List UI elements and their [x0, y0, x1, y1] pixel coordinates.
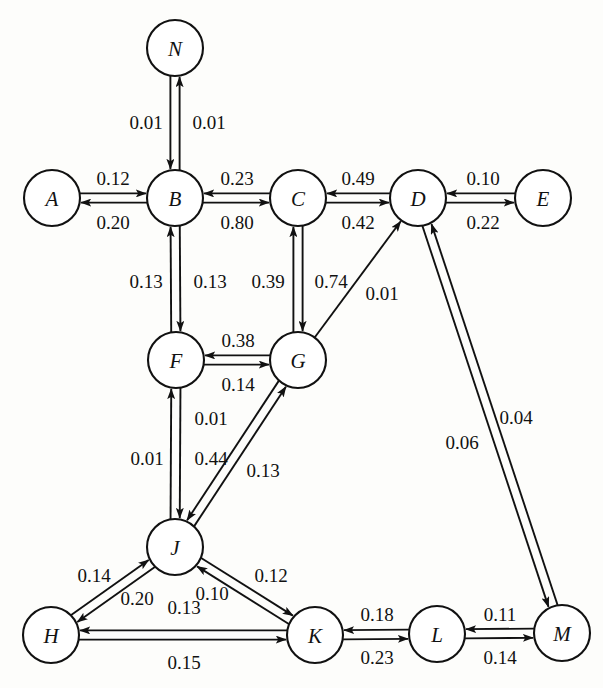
- node-m[interactable]: M: [534, 605, 590, 661]
- node-h[interactable]: H: [23, 607, 79, 663]
- edge-weight-f-j: 0.01: [130, 448, 163, 469]
- edge-weight-a-b: 0.12: [96, 168, 129, 189]
- node-label-c: C: [291, 187, 306, 211]
- node-label-d: D: [409, 187, 425, 211]
- node-a[interactable]: A: [24, 170, 80, 226]
- node-b[interactable]: B: [147, 170, 203, 226]
- edge-weight-c-b: 0.23: [220, 168, 253, 189]
- node-g[interactable]: G: [270, 332, 326, 388]
- edge-weight-l-m: 0.14: [483, 647, 517, 668]
- edge-weight-e-d: 0.10: [466, 168, 499, 189]
- edge-weight-d-c: 0.49: [341, 168, 374, 189]
- edge-weight-k-j: 0.12: [254, 565, 287, 586]
- edge-weight-b-a: 0.20: [96, 212, 129, 233]
- edge-weight-g-f: 0.38: [221, 330, 254, 351]
- node-label-m: M: [552, 622, 572, 646]
- node-j[interactable]: J: [147, 519, 203, 575]
- node-l[interactable]: L: [409, 606, 465, 662]
- edge-b-to-f: [180, 226, 181, 331]
- node-label-l: L: [430, 623, 443, 647]
- edge-weight-m-l: 0.11: [484, 604, 517, 625]
- edge-weight-m-d: 0.06: [445, 432, 478, 453]
- edge-f-to-b: [171, 227, 172, 332]
- node-k[interactable]: K: [287, 607, 343, 663]
- edge-weight-b-n: 0.01: [192, 112, 225, 133]
- node-label-e: E: [536, 187, 550, 211]
- node-label-k: K: [307, 624, 323, 648]
- edge-weight-c-g: 0.39: [251, 271, 284, 292]
- edge-weight-k-l: 0.23: [360, 647, 393, 668]
- edge-l-to-k: [344, 630, 409, 631]
- edge-weight-g-j: 0.13: [246, 460, 279, 481]
- node-c[interactable]: C: [270, 170, 326, 226]
- edge-weight-g-d: 0.01: [365, 283, 398, 304]
- node-n[interactable]: N: [147, 20, 203, 76]
- node-e[interactable]: E: [515, 170, 571, 226]
- graph-diagram: NABCDEFGJHKLM 0.010.010.120.200.230.800.…: [0, 0, 603, 688]
- edge-weight-j-h: 0.20: [120, 588, 153, 609]
- edge-weight-d-e: 0.22: [466, 212, 499, 233]
- edge-weight-h-k: 0.15: [167, 652, 200, 673]
- edge-weight-k-h: 0.13: [167, 597, 200, 618]
- node-label-f: F: [169, 349, 183, 373]
- edge-weight-d-m: 0.04: [499, 407, 533, 428]
- edge-weight-c-d: 0.42: [341, 212, 374, 233]
- edge-weight-b-c: 0.80: [220, 212, 253, 233]
- node-label-n: N: [167, 37, 183, 61]
- edge-weight-g-c: 0.74: [314, 271, 348, 292]
- edge-weight-f-g: 0.14: [221, 374, 255, 395]
- edge-weight-b-f: 0.13: [129, 271, 162, 292]
- node-d[interactable]: D: [390, 170, 446, 226]
- edge-m-to-d: [431, 224, 557, 605]
- edge-l-to-m: [465, 638, 533, 639]
- node-label-h: H: [42, 624, 60, 648]
- edge-weight-j-f: 0.01: [194, 408, 227, 429]
- edge-weight-n-b: 0.01: [129, 112, 162, 133]
- node-label-g: G: [290, 349, 305, 373]
- edge-weight-h-j: 0.14: [77, 565, 111, 586]
- node-label-b: B: [169, 187, 182, 211]
- edge-weight-f-b: 0.13: [193, 271, 226, 292]
- node-f[interactable]: F: [148, 332, 204, 388]
- edge-m-to-l: [466, 629, 534, 630]
- edge-k-to-l: [343, 639, 408, 640]
- edge-f-to-j: [180, 388, 181, 518]
- edge-weight-j-g: 0.44: [194, 448, 228, 469]
- edge-weight-l-k: 0.18: [360, 604, 393, 625]
- edge-j-to-f: [171, 389, 172, 519]
- graph-canvas: NABCDEFGJHKLM 0.010.010.120.200.230.800.…: [0, 0, 603, 688]
- node-label-a: A: [44, 187, 59, 211]
